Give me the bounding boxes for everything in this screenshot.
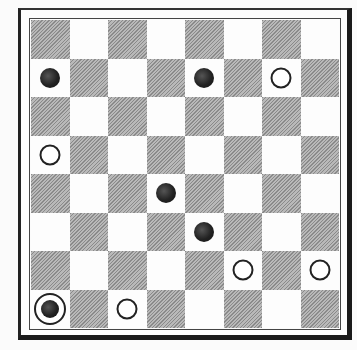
square-r5-c0[interactable] (31, 213, 70, 252)
square-r1-c0[interactable] (31, 59, 70, 98)
square-r2-c3[interactable] (147, 97, 186, 136)
square-r0-c2[interactable] (108, 20, 147, 59)
square-r4-c0[interactable] (31, 174, 70, 213)
square-r1-c2[interactable] (108, 59, 147, 98)
board-frame (18, 8, 352, 340)
square-r0-c7[interactable] (301, 20, 340, 59)
square-r7-c3[interactable] (147, 290, 186, 329)
square-r2-c0[interactable] (31, 97, 70, 136)
board-border (29, 18, 341, 330)
square-r5-c2[interactable] (108, 213, 147, 252)
square-r0-c6[interactable] (262, 20, 301, 59)
square-r4-c1[interactable] (70, 174, 109, 213)
square-r0-c3[interactable] (147, 20, 186, 59)
square-r1-c7[interactable] (301, 59, 340, 98)
square-r2-c2[interactable] (108, 97, 147, 136)
square-r6-c4[interactable] (185, 251, 224, 290)
square-r3-c7[interactable] (301, 136, 340, 175)
black-king-icon[interactable] (34, 293, 66, 325)
square-r2-c4[interactable] (185, 97, 224, 136)
square-r1-c3[interactable] (147, 59, 186, 98)
square-r3-c4[interactable] (185, 136, 224, 175)
black-piece-icon[interactable] (194, 222, 214, 242)
square-r1-c4[interactable] (185, 59, 224, 98)
white-piece-icon[interactable] (117, 298, 138, 319)
square-r6-c5[interactable] (224, 251, 263, 290)
square-r4-c2[interactable] (108, 174, 147, 213)
square-r6-c1[interactable] (70, 251, 109, 290)
square-r6-c6[interactable] (262, 251, 301, 290)
square-r0-c1[interactable] (70, 20, 109, 59)
square-r1-c1[interactable] (70, 59, 109, 98)
square-r5-c5[interactable] (224, 213, 263, 252)
square-r5-c7[interactable] (301, 213, 340, 252)
square-r7-c4[interactable] (185, 290, 224, 329)
square-r5-c4[interactable] (185, 213, 224, 252)
square-r2-c6[interactable] (262, 97, 301, 136)
square-r1-c6[interactable] (262, 59, 301, 98)
square-r0-c0[interactable] (31, 20, 70, 59)
square-r7-c1[interactable] (70, 290, 109, 329)
square-r0-c5[interactable] (224, 20, 263, 59)
square-r6-c0[interactable] (31, 251, 70, 290)
square-r7-c5[interactable] (224, 290, 263, 329)
square-r3-c0[interactable] (31, 136, 70, 175)
square-r0-c4[interactable] (185, 20, 224, 59)
square-r7-c6[interactable] (262, 290, 301, 329)
square-r7-c0[interactable] (31, 290, 70, 329)
white-piece-icon[interactable] (271, 67, 292, 88)
square-r4-c5[interactable] (224, 174, 263, 213)
white-piece-icon[interactable] (40, 144, 61, 165)
square-r2-c1[interactable] (70, 97, 109, 136)
square-r6-c2[interactable] (108, 251, 147, 290)
square-r2-c5[interactable] (224, 97, 263, 136)
square-r4-c4[interactable] (185, 174, 224, 213)
square-r6-c7[interactable] (301, 251, 340, 290)
square-r3-c5[interactable] (224, 136, 263, 175)
checkerboard[interactable] (31, 20, 339, 328)
square-r7-c2[interactable] (108, 290, 147, 329)
black-piece-icon[interactable] (194, 68, 214, 88)
square-r3-c6[interactable] (262, 136, 301, 175)
black-piece-icon[interactable] (156, 183, 176, 203)
square-r5-c6[interactable] (262, 213, 301, 252)
square-r3-c1[interactable] (70, 136, 109, 175)
square-r5-c1[interactable] (70, 213, 109, 252)
square-r3-c3[interactable] (147, 136, 186, 175)
square-r3-c2[interactable] (108, 136, 147, 175)
square-r7-c7[interactable] (301, 290, 340, 329)
square-r5-c3[interactable] (147, 213, 186, 252)
square-r6-c3[interactable] (147, 251, 186, 290)
white-piece-icon[interactable] (232, 260, 253, 281)
black-piece-icon[interactable] (40, 68, 60, 88)
square-r4-c7[interactable] (301, 174, 340, 213)
square-r2-c7[interactable] (301, 97, 340, 136)
white-piece-icon[interactable] (309, 260, 330, 281)
square-r4-c6[interactable] (262, 174, 301, 213)
square-r4-c3[interactable] (147, 174, 186, 213)
square-r1-c5[interactable] (224, 59, 263, 98)
